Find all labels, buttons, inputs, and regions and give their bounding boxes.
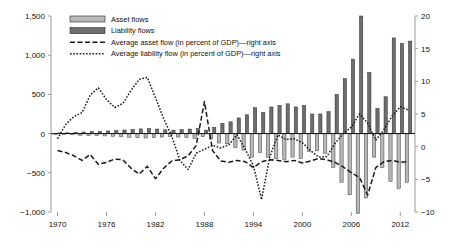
legend-swatch-liability-flows	[70, 28, 105, 34]
bar	[234, 134, 237, 148]
x-axis-tick-label: 2000	[293, 220, 311, 229]
bar	[180, 130, 183, 134]
left-axis-tick-label: 500	[32, 90, 46, 99]
bar	[123, 130, 126, 134]
legend-label: Average asset flow (in percent of GDP)—r…	[111, 38, 276, 47]
legend-label: Average liability flow (in percent of GD…	[111, 49, 281, 58]
bar	[160, 134, 163, 137]
bar	[335, 94, 338, 133]
chart-figure: −1,000−50005001,0001,500−10−505101520197…	[0, 0, 452, 249]
bar	[128, 134, 131, 138]
bar	[343, 79, 346, 134]
bar	[266, 134, 269, 158]
right-axis-tick-label: 0	[421, 143, 426, 152]
right-axis-tick-label: 10	[421, 77, 430, 86]
bar	[384, 97, 387, 134]
chart-legend: Asset flowsLiability flowsAverage asset …	[70, 15, 281, 59]
bar	[340, 134, 343, 183]
bar	[392, 38, 395, 134]
left-axis-tick-label: 1,000	[25, 51, 46, 60]
x-axis-tick-label: 2012	[391, 220, 409, 229]
bar	[217, 134, 220, 143]
bar	[319, 114, 322, 134]
asset-flows-bars	[54, 134, 408, 214]
bar	[299, 134, 302, 159]
bar	[229, 122, 232, 134]
bar	[373, 134, 376, 158]
bar	[185, 134, 188, 138]
bar	[242, 134, 245, 150]
bar	[147, 129, 150, 134]
bar	[389, 134, 392, 182]
bar	[332, 134, 335, 168]
bar	[152, 134, 155, 138]
bar	[193, 134, 196, 139]
bar	[144, 134, 147, 138]
bar	[368, 72, 371, 133]
bar	[226, 134, 229, 144]
right-axis-tick-label: 15	[421, 45, 430, 54]
bar	[136, 134, 139, 138]
bar	[250, 134, 253, 158]
bar	[283, 134, 286, 160]
bar	[131, 129, 134, 133]
x-axis-tick-label: 1988	[196, 220, 214, 229]
x-axis-tick-label: 1994	[245, 220, 263, 229]
bar	[177, 134, 180, 137]
bar	[258, 134, 261, 153]
bar	[188, 129, 191, 134]
x-axis-tick-label: 1976	[98, 220, 116, 229]
bar	[245, 115, 248, 134]
bar	[286, 104, 289, 134]
legend-label: Asset flows	[111, 15, 149, 24]
bar	[324, 134, 327, 154]
bar	[348, 134, 351, 195]
right-axis-tick-label: −5	[421, 175, 431, 184]
left-axis-tick-label: 0	[41, 130, 46, 139]
bar	[213, 127, 216, 133]
left-axis-tick-label: −500	[27, 169, 46, 178]
right-axis-tick-label: 20	[421, 12, 430, 21]
left-axis-tick-label: 1,500	[25, 12, 46, 21]
bar	[405, 134, 408, 183]
bar	[155, 129, 158, 134]
legend-label: Liability flows	[111, 26, 155, 35]
bar	[172, 130, 175, 133]
x-axis-tick-label: 2006	[342, 220, 360, 229]
bar	[221, 123, 224, 133]
bar	[302, 105, 305, 133]
bar	[376, 109, 379, 134]
bar	[139, 129, 142, 134]
bar	[270, 107, 273, 134]
bar	[294, 107, 297, 134]
bar	[262, 112, 265, 133]
bar	[356, 134, 359, 214]
bar	[291, 134, 294, 158]
average-asset-flow-line	[58, 102, 409, 195]
bar	[237, 118, 240, 134]
right-axis-tick-label: 5	[421, 110, 426, 119]
bar	[307, 134, 310, 152]
bar	[164, 130, 167, 134]
chart-canvas: −1,000−50005001,0001,500−10−505101520197…	[0, 0, 452, 249]
bar	[204, 130, 207, 133]
bar	[327, 112, 330, 134]
bar	[311, 114, 314, 134]
right-axis-tick-label: −10	[421, 208, 435, 217]
x-axis-tick-label: 1982	[147, 220, 165, 229]
bar	[315, 134, 318, 151]
bar	[400, 43, 403, 133]
legend-swatch-asset-flows	[70, 16, 105, 22]
average-liability-flow-line	[58, 77, 409, 199]
bar	[253, 108, 256, 134]
bar	[278, 105, 281, 133]
left-axis-tick-label: −1,000	[20, 208, 45, 217]
x-axis-tick-label: 1970	[49, 220, 67, 229]
bar	[409, 41, 412, 134]
